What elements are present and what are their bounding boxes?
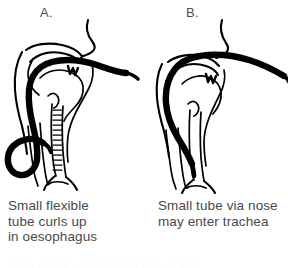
oesophagus-posterior-wall [166, 130, 176, 189]
caption-b-line-2: may enter trachea [158, 214, 288, 230]
mandible-contour [204, 70, 225, 166]
tongue-outline [40, 70, 83, 121]
larynx-notch [48, 93, 59, 108]
figure-root: A. [0, 0, 288, 268]
caption-b-line-1: Small tube via nose [158, 198, 288, 214]
carina-line [49, 182, 68, 184]
illustration-b-svg [144, 18, 288, 196]
carina-line [187, 186, 206, 188]
illustration-a-svg [0, 18, 144, 196]
figure-panel-a: A. [0, 0, 144, 268]
hard-palate-line [26, 44, 82, 56]
trachea-cartilage-rings [53, 110, 62, 170]
illustration-b [144, 18, 288, 196]
feeding-tube-tip-b [284, 76, 288, 84]
illustration-a [0, 18, 144, 196]
epiglottis-flap [206, 74, 216, 83]
caption-a-line-1: Small flexible [8, 198, 152, 214]
caption-a-line-3: in oesophagus [8, 229, 152, 245]
tongue-outline [182, 76, 221, 114]
figure-panel-b: B. [144, 0, 288, 268]
feeding-tube-curl-end-a [43, 143, 51, 152]
oesophagus-anterior-wall [40, 123, 48, 185]
caption-a-line-2: tube curls up [8, 214, 152, 230]
cut-off-text-line: may cause damage to the airway [10, 258, 278, 268]
caption-a: Small flexible tube curls up in oesophag… [0, 198, 152, 245]
caption-b: Small tube via nose may enter trachea [144, 198, 288, 229]
feeding-tube-end-b [192, 164, 194, 176]
feeding-tube-tip-a [126, 73, 138, 79]
